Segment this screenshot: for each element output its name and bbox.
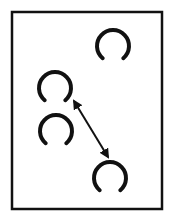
ring-bottom-right <box>94 162 126 190</box>
ring-middle-left-lower <box>40 115 72 143</box>
ring-middle-left-upper <box>39 72 71 100</box>
ring-top-right <box>97 30 129 58</box>
distance-arrow <box>74 101 108 157</box>
diagram-canvas <box>0 0 170 219</box>
frame-border <box>12 12 162 209</box>
